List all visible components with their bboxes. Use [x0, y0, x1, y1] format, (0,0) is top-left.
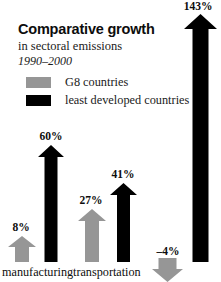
- value-label-transportation-g8: 27%: [68, 194, 114, 206]
- category-label-transportation: transportation: [73, 265, 141, 280]
- plot-area: 143% 60% 41% 27% 8%: [0, 0, 221, 282]
- bar-third-ldc: [184, 14, 217, 262]
- bar-transportation-g8: [78, 209, 106, 262]
- value-label-third-g8: –4%: [145, 245, 191, 257]
- chart-container: Comparative growth in sectoral emissions…: [0, 0, 221, 282]
- value-label-third-ldc: 143%: [175, 0, 221, 12]
- category-label-manufacturing: manufacturing: [2, 265, 73, 280]
- value-label-manufacturing-g8: 8%: [0, 221, 42, 233]
- value-label-manufacturing-ldc: 60%: [28, 130, 74, 142]
- bar-manufacturing-ldc: [38, 145, 64, 262]
- value-label-transportation-ldc: 41%: [100, 168, 146, 180]
- bar-third-g8: [152, 258, 183, 282]
- bar-manufacturing-g8: [8, 236, 36, 262]
- bar-transportation-ldc: [110, 183, 137, 262]
